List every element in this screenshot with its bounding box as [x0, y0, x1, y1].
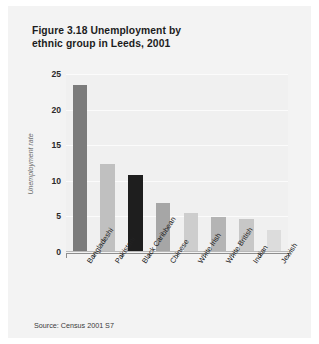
y-axis-tick-label: 5: [56, 211, 61, 221]
figure-title-line-1: Figure 3.18 Unemployment by: [32, 25, 181, 36]
y-axis-tick-label: 15: [51, 140, 61, 150]
y-axis-tick-label: 0: [56, 247, 61, 257]
figure-panel: Figure 3.18 Unemployment by ethnic group…: [8, 6, 311, 338]
x-axis-tick-mark: [66, 253, 67, 258]
figure-title: Figure 3.18 Unemployment by ethnic group…: [32, 24, 282, 50]
source-note: Source: Census 2001 S7: [34, 321, 114, 330]
chart-plot-wrapper: Unemployment rate 0510152025 Bangladeshi…: [32, 64, 294, 264]
plot-area: 0510152025: [66, 74, 288, 252]
figure-title-line-2: ethnic group in Leeds, 2001: [32, 38, 170, 49]
y-axis-tick-label: 20: [51, 105, 61, 115]
y-axis-label: Unemployment rate: [27, 133, 34, 194]
y-axis-tick-label: 10: [51, 176, 61, 186]
bar: [73, 85, 87, 252]
bar-series: [66, 74, 288, 252]
y-axis-tick-label: 25: [51, 69, 61, 79]
